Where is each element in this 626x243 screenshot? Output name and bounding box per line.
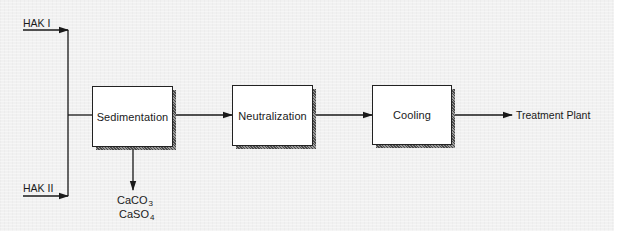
hak1-label: HAK I [23,18,50,29]
byproduct-caco3-subscript: 3 [149,199,153,208]
byproduct-caso4-subscript: 4 [150,213,154,222]
neutralization-label: Neutralization [238,110,307,122]
byproduct-caco3: CaCO3 [117,195,153,206]
sedimentation-label: Sedimentation [97,111,169,123]
process-flow-diagram: HAK I HAK II Sedimentation Neutralizatio… [0,0,626,243]
hak2-label: HAK II [23,183,53,194]
sedimentation-box: Sedimentation [92,86,173,147]
cooling-label: Cooling [393,109,431,121]
byproduct-caso4: CaSO4 [119,209,154,220]
byproduct-caco3-base: CaCO [117,194,148,206]
cooling-box: Cooling [372,85,452,145]
byproduct-caso4-base: CaSO [119,208,149,220]
treatment-plant-label: Treatment Plant [516,110,590,121]
neutralization-box: Neutralization [232,85,313,146]
